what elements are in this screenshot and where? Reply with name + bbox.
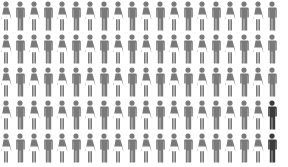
male-person-icon — [238, 100, 250, 130]
female-person-icon — [0, 34, 12, 64]
female-person-icon — [140, 1, 152, 31]
female-person-icon — [224, 100, 236, 130]
icon-array-grid — [0, 1, 280, 166]
female-person-icon — [56, 67, 68, 97]
male-person-icon — [210, 67, 222, 97]
female-person-icon — [252, 34, 264, 64]
female-person-icon — [224, 1, 236, 31]
female-person-icon — [56, 100, 68, 130]
male-person-icon — [70, 1, 82, 31]
female-person-icon — [224, 34, 236, 64]
female-person-icon — [224, 67, 236, 97]
male-person-icon — [42, 100, 54, 130]
female-person-icon — [196, 67, 208, 97]
female-person-icon — [168, 133, 180, 163]
male-person-icon — [154, 67, 166, 97]
female-person-icon — [112, 1, 124, 31]
female-person-icon — [84, 34, 96, 64]
female-person-icon — [84, 67, 96, 97]
male-person-icon — [182, 1, 194, 31]
female-person-icon — [252, 133, 264, 163]
male-person-icon — [126, 1, 138, 31]
female-person-icon — [0, 67, 12, 97]
male-person-icon — [266, 34, 278, 64]
male-person-icon — [14, 1, 26, 31]
female-person-icon — [0, 100, 12, 130]
female-person-icon — [56, 133, 68, 163]
male-person-icon — [42, 133, 54, 163]
male-person-icon — [98, 133, 110, 163]
male-person-icon — [182, 34, 194, 64]
male-person-icon — [154, 133, 166, 163]
female-person-icon — [112, 34, 124, 64]
male-person-icon — [98, 100, 110, 130]
pictogram-chart — [0, 0, 288, 167]
male-person-icon — [154, 34, 166, 64]
female-person-icon — [168, 67, 180, 97]
female-person-icon — [140, 34, 152, 64]
female-person-icon — [84, 100, 96, 130]
female-person-icon — [224, 133, 236, 163]
female-person-icon — [84, 133, 96, 163]
female-person-icon — [196, 1, 208, 31]
male-person-icon — [14, 133, 26, 163]
male-person-icon — [14, 67, 26, 97]
female-person-icon — [168, 100, 180, 130]
male-person-icon — [182, 67, 194, 97]
male-person-icon — [126, 100, 138, 130]
male-person-icon — [238, 1, 250, 31]
male-person-icon — [98, 34, 110, 64]
male-person-icon — [182, 133, 194, 163]
male-person-icon — [70, 34, 82, 64]
male-person-icon — [70, 67, 82, 97]
male-person-icon — [210, 100, 222, 130]
female-person-icon — [252, 100, 264, 130]
highlighted-male-person-icon — [266, 133, 278, 163]
male-person-icon — [70, 100, 82, 130]
male-person-icon — [154, 100, 166, 130]
male-person-icon — [210, 1, 222, 31]
male-person-icon — [182, 100, 194, 130]
male-person-icon — [238, 34, 250, 64]
female-person-icon — [112, 67, 124, 97]
male-person-icon — [126, 133, 138, 163]
female-person-icon — [56, 1, 68, 31]
male-person-icon — [42, 34, 54, 64]
female-person-icon — [28, 34, 40, 64]
male-person-icon — [14, 100, 26, 130]
male-person-icon — [126, 67, 138, 97]
female-person-icon — [0, 1, 12, 31]
female-person-icon — [28, 100, 40, 130]
female-person-icon — [140, 133, 152, 163]
female-person-icon — [168, 1, 180, 31]
male-person-icon — [42, 67, 54, 97]
female-person-icon — [196, 133, 208, 163]
male-person-icon — [70, 133, 82, 163]
female-person-icon — [252, 67, 264, 97]
female-person-icon — [140, 67, 152, 97]
highlighted-male-person-icon — [266, 100, 278, 130]
male-person-icon — [126, 34, 138, 64]
male-person-icon — [154, 1, 166, 31]
male-person-icon — [266, 1, 278, 31]
female-person-icon — [140, 100, 152, 130]
male-person-icon — [266, 67, 278, 97]
female-person-icon — [196, 100, 208, 130]
female-person-icon — [168, 34, 180, 64]
female-person-icon — [28, 133, 40, 163]
male-person-icon — [42, 1, 54, 31]
male-person-icon — [98, 1, 110, 31]
male-person-icon — [238, 133, 250, 163]
male-person-icon — [210, 133, 222, 163]
female-person-icon — [0, 133, 12, 163]
male-person-icon — [238, 67, 250, 97]
female-person-icon — [196, 34, 208, 64]
male-person-icon — [210, 34, 222, 64]
female-person-icon — [28, 67, 40, 97]
male-person-icon — [98, 67, 110, 97]
female-person-icon — [56, 34, 68, 64]
female-person-icon — [28, 1, 40, 31]
male-person-icon — [14, 34, 26, 64]
female-person-icon — [252, 1, 264, 31]
female-person-icon — [84, 1, 96, 31]
